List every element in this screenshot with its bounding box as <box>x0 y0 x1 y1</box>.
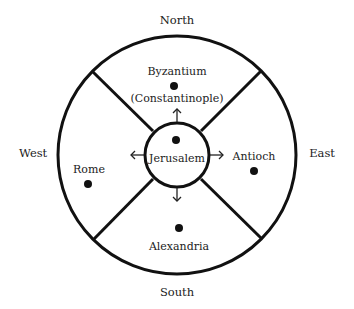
city-antioch-dot <box>250 167 258 175</box>
city-antioch-label: Antioch <box>232 150 276 163</box>
city-byzantium-label: Byzantium <box>147 65 207 78</box>
arrow-down-icon <box>173 188 181 201</box>
direction-west-label: West <box>19 146 48 160</box>
city-alexandria-dot <box>175 224 183 232</box>
city-rome-dot <box>84 180 92 188</box>
divider-sw <box>94 179 153 239</box>
jerusalem-label: Jerusalem <box>148 152 205 165</box>
city-rome-label: Rome <box>73 163 105 176</box>
patriarchates-diagram: North South West East Jerusalem <box>0 0 354 309</box>
arrow-up-icon <box>173 109 181 122</box>
city-alexandria-label: Alexandria <box>148 240 210 253</box>
arrow-right-icon <box>210 151 223 159</box>
arrow-left-icon <box>131 151 144 159</box>
jerusalem-dot <box>172 136 180 144</box>
city-byzantium-dot <box>170 82 178 90</box>
direction-south-label: South <box>160 285 195 299</box>
direction-north-label: North <box>160 13 195 27</box>
direction-east-label: East <box>309 146 335 160</box>
divider-se <box>201 179 262 239</box>
city-byzantium-sublabel: (Constantinople) <box>130 92 223 105</box>
